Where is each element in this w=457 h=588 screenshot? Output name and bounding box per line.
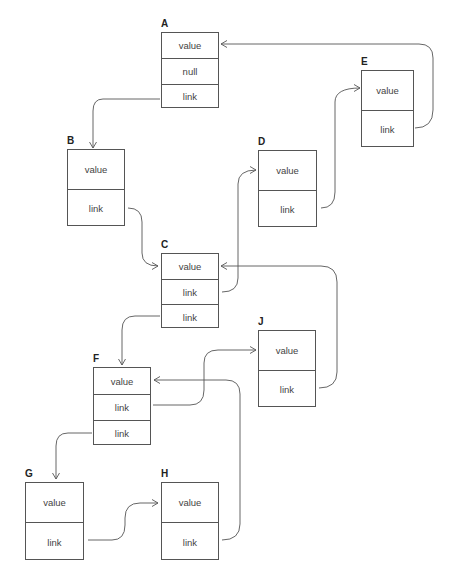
node-d-cell-value: value — [259, 151, 316, 190]
node-j-cell-value: value — [259, 331, 315, 370]
node-label: D — [258, 136, 265, 147]
node-box: valuelinklink — [161, 253, 219, 328]
node-b: B valuelink — [67, 149, 125, 226]
node-g: G valuelink — [25, 482, 84, 560]
node-f-cell-link: link — [94, 420, 150, 446]
node-box: valuelink — [25, 482, 84, 560]
node-j: J valuelink — [258, 330, 316, 407]
arrow-d-link-to-e-value — [321, 88, 360, 208]
node-h-cell-value: value — [162, 483, 218, 522]
node-a: A valuenulllink — [161, 32, 219, 108]
node-h: H valuelink — [161, 482, 219, 560]
node-label: J — [258, 316, 264, 327]
node-b-cell-value: value — [68, 150, 124, 189]
node-label: C — [161, 239, 168, 250]
node-c-cell-value: value — [162, 254, 218, 279]
node-box: valuelinklink — [93, 367, 151, 445]
node-d: D valuelink — [258, 150, 317, 227]
node-e-cell-link: link — [362, 110, 413, 149]
node-label: E — [361, 56, 368, 67]
node-box: valuelink — [258, 150, 317, 227]
node-e: E valuelink — [361, 70, 414, 147]
node-f: F valuelinklink — [93, 367, 151, 445]
node-label: F — [93, 353, 99, 364]
node-a-cell-null: null — [162, 58, 218, 83]
node-a-cell-link: link — [162, 84, 218, 109]
node-f-cell-value: value — [94, 368, 150, 394]
node-c-cell-link: link — [162, 304, 218, 329]
node-label: A — [161, 18, 168, 29]
node-label: B — [67, 135, 74, 146]
node-d-cell-link: link — [259, 190, 316, 229]
arrow-b-link-to-c-value — [128, 208, 158, 266]
node-c-cell-link: link — [162, 279, 218, 304]
arrow-f-link2-to-g — [56, 433, 92, 479]
node-a-cell-value: value — [162, 33, 218, 58]
node-box: valuelink — [161, 482, 219, 560]
node-box: valuelink — [361, 70, 414, 147]
node-box: valuenulllink — [161, 32, 219, 108]
arrow-f-link-to-j-value — [153, 350, 256, 405]
arrow-a-link-to-b — [93, 99, 160, 148]
arrow-c-link-to-d-value — [222, 170, 256, 292]
arrow-g-link-to-h-value — [88, 503, 158, 540]
node-b-cell-link: link — [68, 189, 124, 228]
node-e-cell-value: value — [362, 71, 413, 110]
node-c: C valuelinklink — [161, 253, 219, 328]
node-j-cell-link: link — [259, 370, 315, 409]
node-box: valuelink — [67, 149, 125, 226]
arrow-c-link2-to-f — [122, 316, 160, 365]
node-label: H — [161, 468, 168, 479]
node-h-cell-link: link — [162, 522, 218, 561]
node-f-cell-link: link — [94, 394, 150, 420]
node-label: G — [25, 468, 33, 479]
node-g-cell-value: value — [26, 483, 83, 522]
node-box: valuelink — [258, 330, 316, 407]
node-g-cell-link: link — [26, 522, 83, 561]
